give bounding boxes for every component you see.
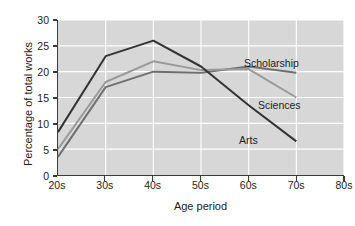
y-tick-label: 20: [37, 67, 49, 78]
y-tick-label: 25: [37, 41, 49, 52]
line-chart-figure: 051015202530 20s30s40s50s60s70s80s Perce…: [0, 0, 355, 226]
y-tick-label: 5: [43, 145, 49, 156]
x-tick-label: 40s: [144, 180, 161, 191]
series-label-arts: Arts: [239, 135, 258, 146]
y-tick-label: 15: [37, 93, 49, 104]
y-tick-mark: [53, 123, 58, 124]
y-axis-title: Percentage of total works: [22, 19, 34, 189]
y-tick-mark: [53, 149, 58, 150]
y-tick-label: 10: [37, 119, 49, 130]
x-tick-label: 80s: [336, 180, 353, 191]
y-axis-tick-marks: [57, 20, 344, 176]
series-label-scholarship: Scholarship: [244, 58, 299, 69]
y-tick-mark: [53, 45, 58, 46]
x-axis-title: Age period: [57, 200, 344, 212]
y-tick-mark: [53, 71, 58, 72]
x-tick-label: 30s: [96, 180, 113, 191]
x-tick-label: 20s: [49, 180, 66, 191]
y-tick-mark: [53, 97, 58, 98]
x-tick-label: 60s: [240, 180, 257, 191]
x-tick-label: 70s: [288, 180, 305, 191]
series-label-sciences: Sciences: [258, 100, 301, 111]
x-axis-tick-labels: 20s30s40s50s60s70s80s: [57, 180, 344, 196]
x-tick-label: 50s: [192, 180, 209, 191]
y-tick-label: 30: [37, 15, 49, 26]
y-tick-mark: [53, 19, 58, 20]
